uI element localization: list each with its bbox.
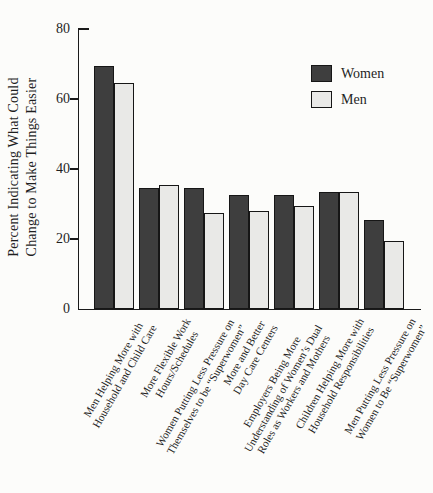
y-axis-top-cap	[79, 28, 89, 30]
bar-chart-figure: Percent Indicating What Could Change to …	[0, 0, 433, 493]
bar-women	[229, 195, 249, 309]
legend-swatch-women-icon	[311, 65, 332, 82]
bar-women	[274, 195, 294, 309]
bar-women	[139, 188, 159, 309]
y-tick	[70, 98, 78, 100]
y-tick-label: 0	[30, 300, 70, 318]
bar-men	[159, 185, 179, 309]
legend-swatch-men-icon	[311, 91, 332, 108]
x-category-label: Men Helping More with Household and Chil…	[78, 316, 158, 430]
y-tick	[70, 238, 78, 240]
y-tick-label: 60	[30, 90, 70, 108]
bar-women	[319, 192, 339, 309]
legend: Women Men	[311, 65, 384, 117]
bar-men	[294, 206, 314, 309]
bar-men	[204, 213, 224, 309]
bar-women	[94, 66, 114, 309]
y-tick-label: 80	[30, 20, 70, 38]
bar-men	[114, 83, 134, 309]
bar-men	[249, 211, 269, 309]
bar-women	[184, 188, 204, 309]
y-tick	[70, 168, 78, 170]
legend-item-women: Women	[311, 65, 384, 82]
legend-label-men: Men	[341, 92, 367, 108]
bar-men	[384, 241, 404, 309]
y-tick-label: 20	[30, 230, 70, 248]
bar-men	[339, 192, 359, 309]
y-tick-label: 40	[30, 160, 70, 178]
legend-label-women: Women	[341, 66, 384, 82]
legend-item-men: Men	[311, 91, 384, 108]
bar-women	[364, 220, 384, 309]
